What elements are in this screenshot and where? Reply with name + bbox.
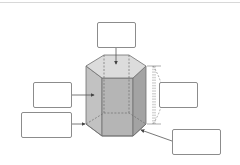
label-box-right-middle[interactable] [159,82,198,108]
label-box-right-bottom[interactable] [172,129,221,155]
label-box-left-lower[interactable] [21,112,72,138]
front-lateral-face [102,78,133,136]
label-box-top[interactable] [97,22,136,48]
label-box-left-upper[interactable] [33,82,72,108]
arrow-right-bottom [141,130,172,141]
